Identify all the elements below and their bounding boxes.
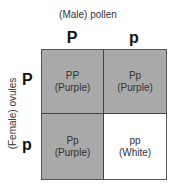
- genotype: Pp: [66, 135, 78, 147]
- cell-pp: pp (White): [104, 114, 166, 179]
- row-allele-P: P: [22, 71, 33, 89]
- column-allele-p: p: [103, 29, 165, 47]
- genotype: PP: [66, 70, 79, 82]
- genotype: pp: [129, 135, 140, 147]
- phenotype: (White): [119, 147, 151, 159]
- phenotype: (Purple): [117, 82, 153, 94]
- cell-Pp-top: Pp (Purple): [104, 50, 166, 114]
- cell-PP: PP (Purple): [42, 50, 104, 114]
- female-ovules-label: (Female) ovules: [7, 54, 18, 174]
- punnett-grid: PP (Purple) Pp (Purple) Pp (Purple) pp (…: [41, 49, 167, 180]
- phenotype: (Purple): [55, 147, 91, 159]
- male-pollen-label: (Male) pollen: [0, 9, 176, 20]
- phenotype: (Purple): [55, 82, 91, 94]
- row-allele-p: p: [22, 136, 32, 154]
- genotype: Pp: [129, 70, 141, 82]
- cell-Pp-bottom: Pp (Purple): [42, 114, 104, 179]
- column-allele-P: P: [41, 29, 103, 47]
